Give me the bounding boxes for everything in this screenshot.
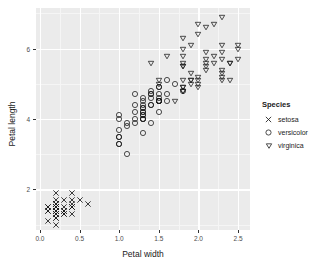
data-point-virginica: [187, 42, 195, 49]
data-point-setosa: [52, 207, 59, 214]
x-tick-label: 2.5: [234, 235, 243, 242]
data-point-setosa: [60, 211, 67, 218]
y-tick-mark: [33, 119, 36, 120]
data-point-virginica: [218, 42, 226, 49]
data-point-setosa: [52, 197, 59, 204]
data-point-setosa: [52, 204, 59, 211]
legend-item-versicolor[interactable]: versicolor: [262, 126, 320, 139]
data-point-versicolor: [179, 87, 186, 94]
data-point-virginica: [187, 77, 195, 84]
data-point-setosa: [52, 207, 59, 214]
data-point-virginica: [163, 52, 171, 59]
triangle-down-icon: [262, 139, 275, 152]
data-point-virginica: [179, 77, 187, 84]
data-point-setosa: [44, 207, 51, 214]
data-point-virginica: [218, 70, 226, 77]
data-point-setosa: [68, 200, 75, 207]
data-point-versicolor: [147, 87, 154, 94]
data-point-virginica: [210, 59, 218, 66]
data-point-versicolor: [147, 91, 154, 98]
data-point-setosa: [60, 207, 67, 214]
plot-panel: [36, 8, 250, 230]
data-point-versicolor: [147, 101, 154, 108]
data-point-virginica: [218, 77, 226, 84]
data-point-virginica: [226, 77, 234, 84]
data-point-versicolor: [140, 130, 147, 137]
gridline-minor-horizontal: [36, 13, 250, 14]
data-point-virginica: [202, 56, 210, 63]
gridline-minor-horizontal: [36, 84, 250, 85]
data-point-virginica: [218, 66, 226, 73]
y-tick-label: 6: [14, 45, 30, 52]
legend-items: setosaversicolorvirginica: [262, 113, 320, 152]
data-point-virginica: [218, 73, 226, 80]
x-tick-label: 0.0: [35, 235, 44, 242]
data-point-setosa: [52, 214, 59, 221]
data-point-versicolor: [124, 123, 131, 130]
data-point-setosa: [52, 200, 59, 207]
data-point-setosa: [52, 200, 59, 207]
data-point-setosa: [84, 200, 91, 207]
data-point-setosa: [60, 211, 67, 218]
data-point-setosa: [52, 200, 59, 207]
legend-item-setosa[interactable]: setosa: [262, 113, 320, 126]
data-point-setosa: [68, 197, 75, 204]
data-point-virginica: [218, 56, 226, 63]
data-point-virginica: [147, 59, 155, 66]
gridline-major-horizontal: [36, 49, 250, 50]
data-point-versicolor: [140, 94, 147, 101]
data-point-setosa: [44, 218, 51, 225]
data-point-setosa: [52, 207, 59, 214]
data-point-versicolor: [132, 108, 139, 115]
data-point-setosa: [52, 204, 59, 211]
gridline-minor-horizontal: [36, 225, 250, 226]
data-point-virginica: [179, 63, 187, 70]
data-point-virginica: [202, 63, 210, 70]
y-tick-label: 2: [14, 186, 30, 193]
data-point-setosa: [52, 207, 59, 214]
data-point-versicolor: [147, 101, 154, 108]
x-tick-mark: [159, 230, 160, 233]
data-point-setosa: [60, 197, 67, 204]
data-point-setosa: [52, 204, 59, 211]
data-point-setosa: [52, 204, 59, 211]
legend-item-label: virginica: [278, 142, 304, 149]
x-tick-label: 2.0: [194, 235, 203, 242]
data-point-versicolor: [140, 112, 147, 119]
y-tick-mark: [33, 189, 36, 190]
data-point-versicolor: [163, 98, 170, 105]
data-point-setosa: [52, 207, 59, 214]
data-point-setosa: [52, 207, 59, 214]
legend-item-label: versicolor: [278, 129, 308, 136]
gridline-minor-horizontal: [36, 154, 250, 155]
data-point-virginica: [179, 84, 187, 91]
x-tick-label: 1.0: [115, 235, 124, 242]
gridline-major-horizontal: [36, 119, 250, 120]
data-point-setosa: [52, 204, 59, 211]
legend-item-virginica[interactable]: virginica: [262, 139, 320, 152]
legend-title: Species: [262, 100, 320, 109]
data-point-setosa: [60, 207, 67, 214]
legend: Species setosaversicolorvirginica: [262, 100, 320, 152]
data-point-setosa: [60, 207, 67, 214]
data-point-virginica: [187, 70, 195, 77]
data-point-setosa: [52, 211, 59, 218]
data-point-virginica: [171, 98, 179, 105]
data-point-versicolor: [140, 108, 147, 115]
data-point-versicolor: [163, 91, 170, 98]
data-point-setosa: [68, 204, 75, 211]
data-point-setosa: [52, 211, 59, 218]
y-axis-title: Petal length: [7, 79, 17, 169]
data-point-virginica: [179, 34, 187, 41]
data-point-virginica: [210, 52, 218, 59]
x-tick-mark: [198, 230, 199, 233]
data-point-setosa: [52, 211, 59, 218]
data-point-setosa: [52, 204, 59, 211]
data-point-setosa: [52, 200, 59, 207]
data-point-virginica: [179, 59, 187, 66]
x-tick-mark: [40, 230, 41, 233]
data-point-virginica: [226, 59, 234, 66]
data-point-setosa: [52, 207, 59, 214]
data-point-virginica: [179, 87, 187, 94]
data-point-virginica: [179, 63, 187, 70]
